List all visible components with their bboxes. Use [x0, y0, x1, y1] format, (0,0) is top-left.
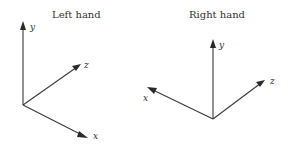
left-z-label: z [83, 60, 89, 70]
right-z-label: z [269, 76, 275, 86]
coordinate-systems-figure: Left hand y z x Right hand y z x [0, 0, 288, 147]
right-x-arrowhead-icon [147, 87, 157, 94]
left-z-axis [23, 67, 77, 105]
right-y-label: y [218, 40, 225, 50]
right-hand-title: Right hand [189, 9, 246, 20]
left-hand-diagram: Left hand y z x [20, 9, 101, 141]
left-x-label: x [93, 131, 98, 141]
left-x-arrowhead-icon [77, 131, 88, 138]
right-y-arrowhead-icon [210, 39, 216, 48]
right-hand-diagram: Right hand y z x [143, 9, 275, 119]
right-x-axis [153, 90, 213, 119]
left-x-axis [23, 105, 82, 135]
left-hand-title: Left hand [52, 9, 101, 20]
left-y-arrowhead-icon [20, 21, 26, 30]
right-z-axis [213, 83, 261, 119]
right-x-label: x [143, 93, 148, 103]
left-y-label: y [29, 22, 36, 32]
